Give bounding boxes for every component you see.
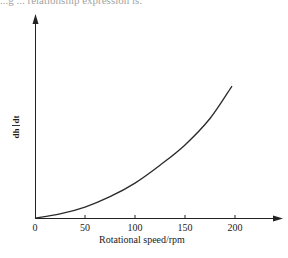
x-tick-label: 100 bbox=[128, 222, 143, 233]
fraction-bar bbox=[12, 126, 20, 127]
x-tick-label: 0 bbox=[33, 222, 38, 233]
y-axis-title-denominator: dt bbox=[11, 115, 21, 123]
x-tick-label: 50 bbox=[80, 222, 90, 233]
x-axis-arrow-icon bbox=[273, 216, 283, 222]
chart-canvas: 050100150200 Rotational speed/rpm bbox=[0, 0, 288, 258]
y-axis-arrow-icon bbox=[33, 14, 39, 24]
y-axis-title-numerator: dh bbox=[11, 129, 21, 139]
data-line-series-1 bbox=[35, 86, 232, 218]
x-axis-title: Rotational speed/rpm bbox=[99, 234, 185, 245]
x-tick-label: 150 bbox=[178, 222, 193, 233]
x-axis-ticks: 050100150200 bbox=[33, 215, 243, 233]
x-tick-label: 200 bbox=[228, 222, 243, 233]
y-axis-title: dh dt bbox=[1, 117, 31, 137]
